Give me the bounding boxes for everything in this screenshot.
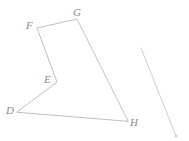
vertex-label-d: D (6, 105, 14, 116)
vertex-label-f: F (26, 20, 33, 31)
segment-endpoint-marker (175, 135, 178, 138)
vertex-label-g: G (73, 7, 81, 18)
vertex-label-e: E (44, 74, 51, 85)
vertex-label-h: H (130, 117, 138, 128)
unlabeled-line-segment (141, 48, 176, 136)
pentagon-DEFGH (17, 19, 128, 121)
geometry-figure-canvas: D E F G H (0, 0, 189, 141)
